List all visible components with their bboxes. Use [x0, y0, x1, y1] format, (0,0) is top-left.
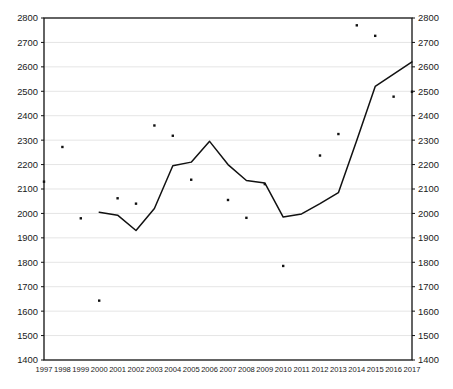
x-tick-label: 2011 [293, 365, 309, 374]
x-tick-label: 2013 [330, 365, 347, 374]
x-tick-label: 1998 [54, 365, 71, 374]
scatter-point [374, 35, 376, 37]
x-tick-label: 2000 [91, 365, 108, 374]
scatter-point [172, 135, 174, 137]
scatter-point [264, 183, 266, 185]
y-tick-label-right: 2200 [418, 159, 439, 170]
y-tick-label-left: 2000 [17, 208, 38, 219]
x-axis-labels: 1997199819992000200120022003200420052006… [36, 365, 421, 374]
y-tick-label-right: 2400 [418, 110, 439, 121]
scatter-point [392, 95, 394, 97]
scatter-point [282, 265, 284, 267]
scatter-point [190, 179, 192, 181]
chart-container: 1400150016001700180019002000210022002300… [0, 0, 453, 389]
scatter-point [43, 180, 45, 182]
scatter-point [245, 217, 247, 219]
y-tick-label-right: 2500 [418, 86, 439, 97]
x-tick-label: 2008 [238, 365, 255, 374]
x-tick-label: 2010 [275, 365, 292, 374]
line-series-path [99, 62, 412, 231]
y-tick-label-left: 1400 [17, 354, 38, 365]
x-tick-label: 1997 [36, 365, 53, 374]
y-tick-label-right: 1600 [418, 306, 439, 317]
y-tick-label-right: 1500 [418, 330, 439, 341]
gridlines-group [44, 42, 412, 335]
x-tick-label: 2004 [164, 365, 181, 374]
x-tick-label: 2002 [128, 365, 145, 374]
y-tick-label-left: 2600 [17, 61, 38, 72]
x-tick-label: 2003 [146, 365, 163, 374]
scatter-point [98, 299, 100, 301]
y-tick-label-left: 2500 [17, 86, 38, 97]
x-tick-label: 2006 [201, 365, 218, 374]
y-tick-label-right: 2100 [418, 183, 439, 194]
x-tick-label: 2016 [385, 365, 402, 374]
y-tick-label-left: 1900 [17, 232, 38, 243]
scatter-point [356, 24, 358, 26]
x-tick-label: 2015 [367, 365, 384, 374]
y-tick-label-right: 2600 [418, 61, 439, 72]
scatter-point [135, 202, 137, 204]
x-tick-label: 2014 [348, 365, 365, 374]
y-tick-label-right: 2000 [418, 208, 439, 219]
x-tick-label: 2017 [404, 365, 421, 374]
scatter-point [337, 133, 339, 135]
x-tick-label: 2012 [312, 365, 329, 374]
scatter-point [80, 217, 82, 219]
y-tick-label-right: 1700 [418, 281, 439, 292]
y-tick-label-left: 2700 [17, 37, 38, 48]
x-tick-label: 2001 [109, 365, 126, 374]
y-tick-label-left: 1600 [17, 306, 38, 317]
y-tick-label-left: 2800 [17, 12, 38, 23]
y-axis-right-labels: 1400150016001700180019002000210022002300… [418, 12, 439, 365]
y-tick-label-right: 1400 [418, 354, 439, 365]
y-tick-label-right: 1900 [418, 232, 439, 243]
y-tick-label-right: 1800 [418, 257, 439, 268]
y-tick-label-left: 2300 [17, 135, 38, 146]
y-tick-label-right: 2300 [418, 135, 439, 146]
y-tick-label-left: 1700 [17, 281, 38, 292]
scatter-point [116, 197, 118, 199]
x-tick-label: 2007 [220, 365, 237, 374]
x-tick-label: 2005 [183, 365, 200, 374]
scatter-series-points [43, 24, 413, 302]
y-tick-label-right: 2700 [418, 37, 439, 48]
y-tick-label-left: 1500 [17, 330, 38, 341]
y-tick-label-left: 2200 [17, 159, 38, 170]
scatter-point [61, 146, 63, 148]
y-tick-label-left: 2100 [17, 183, 38, 194]
x-tick-label: 1999 [72, 365, 89, 374]
scatter-point [411, 91, 413, 93]
y-tick-label-left: 2400 [17, 110, 38, 121]
scatter-point [153, 124, 155, 126]
y-tick-label-left: 1800 [17, 257, 38, 268]
scatter-point [319, 154, 321, 156]
scatter-point [227, 199, 229, 201]
chart-svg: 1400150016001700180019002000210022002300… [0, 0, 453, 389]
x-tick-label: 2009 [256, 365, 273, 374]
y-axis-left-labels: 1400150016001700180019002000210022002300… [17, 12, 38, 365]
y-tick-label-right: 2800 [418, 12, 439, 23]
